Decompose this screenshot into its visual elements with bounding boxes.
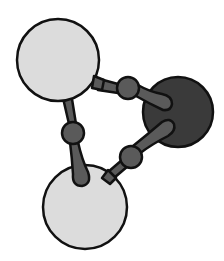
bond-bottom [108, 120, 174, 178]
bond-bead-left [62, 122, 84, 144]
bond-stub-top-left [92, 76, 104, 90]
bond-bead-top [117, 77, 139, 99]
molecule-diagram [0, 0, 224, 261]
bond-bead-bottom [120, 146, 142, 168]
bond-left [63, 98, 76, 124]
atom-light-top-left [17, 19, 99, 101]
